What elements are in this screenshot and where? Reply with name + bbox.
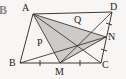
vertex-label-C: C [102, 60, 109, 70]
vertex-label-M: M [55, 67, 64, 77]
geometry-figure: B A D B C M N P Q [0, 0, 126, 79]
vertex-label-Q: Q [74, 15, 81, 25]
segment-side-AD [33, 12, 112, 14]
vertex-label-A: A [22, 3, 29, 13]
vertex-label-P: P [37, 38, 43, 48]
vertex-label-N: N [108, 32, 115, 42]
vertex-label-B: B [9, 58, 16, 68]
vertex-label-D: D [110, 2, 117, 12]
segment-side-AB [20, 14, 33, 63]
